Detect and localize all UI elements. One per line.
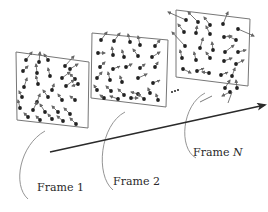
particle-dot [181, 67, 185, 71]
particle-dot [112, 39, 116, 43]
particle-dot [102, 96, 106, 100]
particle-dot [236, 27, 240, 31]
particle-dot [208, 23, 212, 27]
particle-dot [48, 74, 52, 78]
particle-dot [111, 67, 115, 71]
particle-dot [21, 69, 25, 73]
frame-n-label-prefix: Frame [193, 146, 229, 159]
particle-dot [138, 66, 142, 70]
particle-dot [208, 32, 212, 36]
particle-dot [98, 65, 102, 69]
particle-dot [196, 20, 200, 24]
particle-dot [61, 119, 65, 123]
particle-dot [26, 115, 30, 119]
particle-dot [136, 54, 140, 58]
frame-1-panel [16, 52, 89, 128]
frame-2-label: Frame 2 [113, 176, 160, 187]
particle-dot [194, 58, 198, 62]
particle-dot [208, 56, 212, 60]
frame-1-label-prefix: Frame [37, 181, 73, 194]
particle-dot [221, 22, 225, 26]
frame-n-label: Frame N [193, 147, 243, 158]
particle-dot [138, 43, 142, 47]
particle-dot [46, 58, 50, 62]
particle-dot [46, 95, 50, 99]
ellipsis-dot [174, 90, 176, 92]
particle-dot [136, 76, 140, 80]
particle-dot [207, 71, 211, 75]
frame-sequence-diagram: Frame 1 Frame 2 Frame N [0, 0, 268, 212]
particle-dot [68, 67, 72, 71]
particle-dot [124, 65, 128, 69]
particle-dot [31, 108, 35, 112]
particle-dot [235, 86, 239, 90]
particle-dot [43, 110, 47, 114]
particle-dot [148, 91, 152, 95]
frame-2-label-suffix: 2 [153, 175, 160, 188]
ellipsis-dots [171, 89, 179, 93]
particle-dot [128, 40, 132, 44]
particle-dot [151, 81, 155, 85]
particle-dot [96, 51, 100, 55]
particle-dot [38, 118, 42, 122]
particle-dot [230, 74, 234, 78]
particle-dot [122, 93, 126, 97]
particle-dot [64, 84, 68, 88]
particle-dot [73, 98, 77, 102]
particle-dot [108, 78, 112, 82]
particle-dot [156, 98, 160, 102]
frame-n-panel [168, 10, 254, 103]
particle-dot [22, 85, 26, 89]
particle-dot [60, 76, 64, 80]
frame-n-label-suffix: N [233, 146, 243, 159]
particle-dot [150, 55, 154, 59]
particle-dot [183, 44, 187, 48]
particle-dot [68, 112, 72, 116]
particle-dot [180, 56, 184, 60]
particle-dot [129, 96, 133, 100]
frame-1-label: Frame 1 [37, 182, 84, 193]
particle-dot [63, 64, 67, 68]
particle-dot [211, 48, 215, 52]
particle-dot [195, 69, 199, 73]
particle-dot [24, 58, 28, 62]
particle-dot [111, 53, 115, 57]
particle-dot [60, 98, 64, 102]
particle-dot [18, 106, 22, 110]
particle-dot [37, 60, 41, 64]
particle-dot [184, 18, 188, 22]
frame-2-label-prefix: Frame [113, 175, 149, 188]
particle-dot [219, 73, 223, 77]
particle-dot [99, 38, 103, 42]
particle-dot [120, 80, 124, 84]
particle-dot [20, 95, 24, 99]
particle-dot [95, 76, 99, 80]
particle-dot [109, 89, 113, 93]
particle-dot [56, 110, 60, 114]
ellipsis-dot [177, 89, 179, 91]
particle-dot [153, 44, 157, 48]
frame-1-label-suffix: 1 [77, 181, 84, 194]
particle-dot [116, 97, 120, 101]
particle-dot [222, 59, 226, 63]
velocity-vector [200, 96, 212, 102]
particle-dot [234, 62, 238, 66]
particle-dot [234, 38, 238, 42]
particle-dot [95, 88, 99, 92]
particle-dot [223, 50, 227, 54]
particle-dot [76, 82, 80, 86]
particle-dot [223, 86, 227, 90]
particle-dot [194, 31, 198, 35]
ellipsis-dot [171, 91, 173, 93]
particle-dot [236, 50, 240, 54]
particle-dot [74, 122, 78, 126]
particle-dot [122, 55, 126, 59]
particle-dot [198, 46, 202, 50]
particle-dot [142, 97, 146, 101]
particle-dot [222, 35, 226, 39]
frame-2-panel [91, 32, 168, 107]
particle-dot [36, 82, 40, 86]
particle-dot [50, 117, 54, 121]
particle-dot [182, 30, 186, 34]
particle-dot [50, 88, 54, 92]
